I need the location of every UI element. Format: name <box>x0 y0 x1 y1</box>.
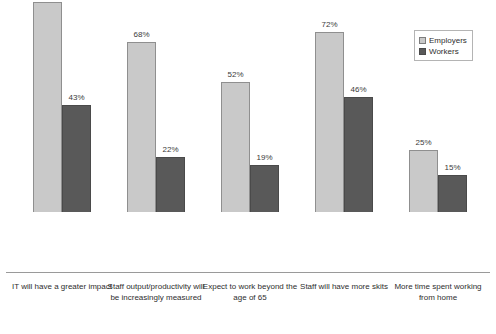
bar-rect-workers-1[interactable] <box>62 105 91 213</box>
bar-employers-5[interactable]: 25% <box>409 150 438 213</box>
bar-employers-3[interactable]: 52% <box>221 82 250 212</box>
category-label-5: More time spent working from home <box>386 281 490 303</box>
legend-item-employers[interactable]: Employers <box>419 35 467 45</box>
bar-value-workers-2: 22% <box>162 146 178 154</box>
bar-rect-employers-3[interactable] <box>221 82 250 212</box>
bar-rect-workers-3[interactable] <box>250 165 279 213</box>
legend-item-workers[interactable]: Workers <box>419 46 467 56</box>
chart-legend: Employers Workers <box>414 30 473 61</box>
bar-rect-employers-5[interactable] <box>409 150 438 213</box>
category-label-4: Staff will have more skits <box>292 281 396 292</box>
bar-group-1: 84% 43% <box>33 0 91 212</box>
bar-rect-workers-2[interactable] <box>156 157 185 212</box>
bar-workers-1[interactable]: 43% <box>62 105 91 213</box>
bar-value-workers-1: 43% <box>68 94 84 102</box>
bar-value-workers-3: 19% <box>256 154 272 162</box>
bar-workers-5[interactable]: 15% <box>438 175 467 213</box>
bar-group-4: 72% 46% <box>315 0 373 212</box>
category-axis-line <box>6 272 490 273</box>
bar-workers-2[interactable]: 22% <box>156 157 185 212</box>
bar-rect-employers-4[interactable] <box>315 32 344 212</box>
bar-value-employers-2: 68% <box>133 31 149 39</box>
category-label-3: Expect to work beyond the age of 65 <box>198 281 302 303</box>
bar-value-employers-4: 72% <box>321 21 337 29</box>
category-label-1: IT will have a greater impact <box>10 281 114 292</box>
bar-value-employers-3: 52% <box>227 71 243 79</box>
bar-employers-2[interactable]: 68% <box>127 42 156 212</box>
bar-group-2: 68% 22% <box>127 0 185 212</box>
bar-employers-4[interactable]: 72% <box>315 32 344 212</box>
bar-workers-3[interactable]: 19% <box>250 165 279 213</box>
bar-value-workers-4: 46% <box>350 86 366 94</box>
bar-workers-4[interactable]: 46% <box>344 97 373 212</box>
bar-rect-workers-5[interactable] <box>438 175 467 213</box>
bar-value-employers-5: 25% <box>415 139 431 147</box>
bar-employers-1[interactable]: 84% <box>33 2 62 212</box>
category-label-2: Staff output/productivity will be increa… <box>104 281 208 303</box>
legend-swatch-employers-icon <box>419 37 426 44</box>
bar-rect-workers-4[interactable] <box>344 97 373 212</box>
bar-value-workers-5: 15% <box>444 164 460 172</box>
bar-rect-employers-1[interactable] <box>33 2 62 212</box>
bar-chart: 84% 43% 68% 22% <box>0 0 496 334</box>
legend-label-employers: Employers <box>429 36 467 45</box>
legend-label-workers: Workers <box>429 47 459 56</box>
bar-rect-employers-2[interactable] <box>127 42 156 212</box>
legend-swatch-workers-icon <box>419 48 426 55</box>
bar-group-3: 52% 19% <box>221 0 279 212</box>
